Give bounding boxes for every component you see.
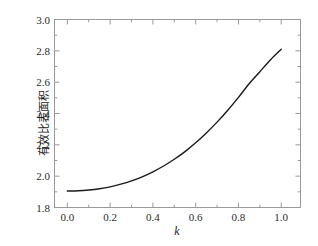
- y-axis-title: 有效比表面积: [35, 90, 51, 156]
- y-tick-label: 2.8: [26, 45, 50, 56]
- x-tick-label: 1.0: [274, 212, 288, 223]
- y-tick-label: 2.6: [26, 77, 50, 88]
- x-tick-label: 0.4: [146, 212, 160, 223]
- plot-frame: [55, 20, 301, 208]
- y-tick-label: 1.8: [26, 202, 50, 213]
- x-tick-label: 0.2: [103, 212, 117, 223]
- x-tick-label: 0.8: [232, 212, 246, 223]
- chart-figure: 1.82.02.22.42.62.83.0 0.00.20.40.60.81.0…: [0, 0, 318, 246]
- y-tick-label: 2.0: [26, 171, 50, 182]
- x-tick-label: 0.6: [189, 212, 203, 223]
- y-tick-label: 3.0: [26, 14, 50, 25]
- x-tick-label: 0.0: [60, 212, 74, 223]
- x-axis-title: k: [174, 224, 179, 239]
